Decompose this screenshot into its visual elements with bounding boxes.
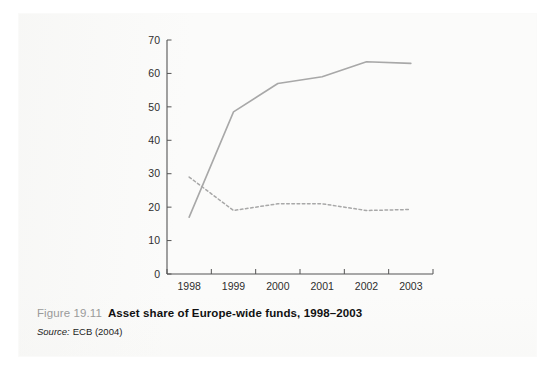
line-chart: 010203040506070 199819992000200120022003 (131, 32, 443, 298)
x-axis-tick-label: 1998 (177, 280, 201, 292)
chart-plot-area: 010203040506070 199819992000200120022003 (131, 32, 443, 298)
x-axis: 199819992000200120022003 (167, 269, 433, 292)
figure-container: 010203040506070 199819992000200120022003… (19, 14, 536, 356)
figure-source-line: Source:ECB (2004) (37, 325, 507, 338)
y-axis-tick-label: 30 (148, 167, 160, 179)
y-axis-tick-label: 70 (148, 34, 160, 46)
y-axis-tick-label: 10 (148, 234, 160, 246)
series-line-dashed (189, 177, 411, 210)
x-axis-tick-label: 2000 (266, 280, 290, 292)
y-axis-tick-label: 0 (154, 268, 160, 280)
source-label: Source: (37, 326, 70, 337)
y-axis: 010203040506070 (148, 34, 171, 280)
x-axis-tick-label: 1999 (222, 280, 246, 292)
y-axis-tick-label: 40 (148, 134, 160, 146)
series-line-solid (189, 62, 411, 217)
figure-title: Asset share of Europe-wide funds, 1998–2… (108, 307, 362, 319)
chart-series-group (189, 62, 411, 217)
figure-number: Figure 19.11 (37, 307, 102, 319)
x-axis-tick-label: 2003 (399, 280, 423, 292)
source-value: ECB (2004) (73, 326, 123, 337)
x-axis-tick-label: 2002 (355, 280, 379, 292)
y-axis-tick-label: 20 (148, 201, 160, 213)
caption-title-line: Figure 19.11Asset share of Europe-wide f… (37, 304, 507, 321)
figure-caption: Figure 19.11Asset share of Europe-wide f… (37, 304, 507, 338)
y-axis-tick-label: 50 (148, 101, 160, 113)
x-axis-tick-label: 2001 (310, 280, 334, 292)
y-axis-tick-label: 60 (148, 67, 160, 79)
